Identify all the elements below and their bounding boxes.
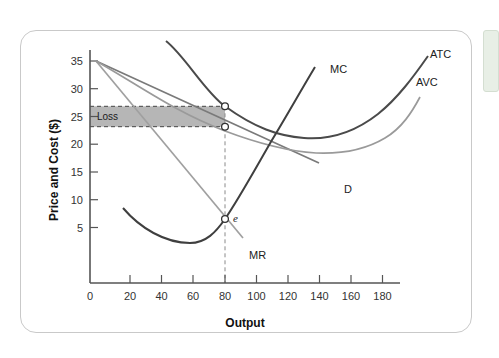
x-ticks [130,275,383,283]
d-label: D [344,183,352,195]
x-tick-180: 180 [373,290,391,302]
x-tick-60: 60 [187,290,199,302]
x-tick-160: 160 [342,290,360,302]
y-axis-title: Price and Cost ($) [47,119,61,221]
y-tick-20: 20 [71,138,83,150]
price-point [222,123,229,130]
x-tick-140: 140 [310,290,328,302]
x-tick-20: 20 [124,290,136,302]
y-tick-5: 5 [77,222,83,234]
y-tick-35: 35 [71,55,83,67]
e-point-label: e [233,212,238,224]
chart-page: 35 30 25 20 15 10 5 0 20 40 60 80 100 12… [0,0,499,358]
x-tick-120: 120 [279,290,297,302]
y-tick-25: 25 [71,111,83,123]
mr-label: MR [249,249,266,261]
mr-curve [96,61,243,238]
loss-label: Loss [97,111,118,122]
y-tick-10: 10 [71,194,83,206]
mc-curve [123,67,315,243]
atc-label: ATC [430,48,451,60]
equilibrium-point [222,216,229,223]
y-ticks [90,61,98,228]
x-tick-100: 100 [247,290,265,302]
x-axis-title: Output [225,316,264,330]
x-tick-80: 80 [219,290,231,302]
economics-chart: 35 30 25 20 15 10 5 0 20 40 60 80 100 12… [0,0,499,358]
y-tick-15: 15 [71,166,83,178]
y-tick-30: 30 [71,83,83,95]
x-tick-0: 0 [87,290,93,302]
atc-point [222,103,229,110]
avc-label: AVC [416,76,438,88]
x-tick-40: 40 [155,290,167,302]
mc-label: MC [330,63,347,75]
